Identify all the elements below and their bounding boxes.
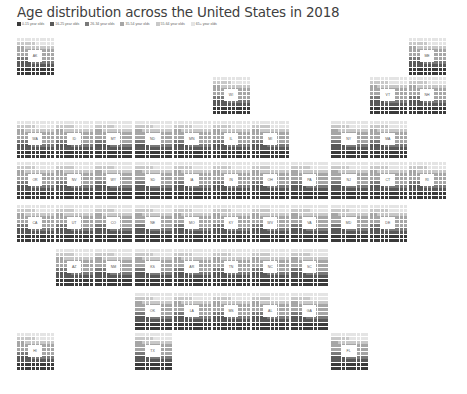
waffle-cell — [291, 162, 294, 165]
waffle-cell — [67, 166, 70, 169]
state-label: NV — [67, 174, 81, 186]
waffle-cell — [439, 38, 442, 41]
waffle-cell — [200, 220, 203, 223]
waffle-cell — [247, 209, 250, 212]
waffle-cell — [60, 283, 63, 286]
waffle-cell — [138, 356, 141, 359]
waffle-cell — [420, 81, 423, 84]
waffle-cell — [165, 356, 168, 359]
waffle-cell — [56, 181, 59, 184]
waffle-cell — [247, 170, 250, 173]
waffle-cell — [174, 301, 177, 304]
waffle-cell — [86, 279, 89, 282]
waffle-cell — [295, 170, 298, 173]
waffle-cell — [138, 239, 141, 242]
waffle-cell — [267, 279, 270, 282]
waffle-cell — [409, 42, 412, 45]
waffle-cell — [413, 49, 416, 52]
waffle-cell — [138, 136, 141, 139]
waffle-cell — [83, 260, 86, 263]
waffle-cell — [95, 264, 98, 267]
waffle-cell — [400, 177, 403, 180]
waffle-cell — [331, 151, 334, 154]
waffle-cell — [181, 253, 184, 256]
waffle-cell — [286, 249, 289, 252]
waffle-cell — [208, 275, 211, 278]
waffle-cell — [32, 155, 35, 158]
waffle-cell — [243, 177, 246, 180]
waffle-cell — [135, 275, 138, 278]
waffle-cell — [400, 151, 403, 154]
waffle-cell — [64, 162, 67, 165]
waffle-cell — [185, 188, 188, 191]
waffle-cell — [357, 363, 360, 366]
waffle-cell — [396, 92, 399, 95]
waffle-cell — [118, 196, 121, 199]
waffle-cell — [331, 367, 334, 370]
waffle-cell — [252, 293, 255, 296]
waffle-cell — [349, 367, 352, 370]
waffle-cell — [200, 327, 203, 330]
waffle-cell — [28, 239, 31, 242]
waffle-cell — [282, 293, 285, 296]
waffle-cell — [409, 85, 412, 88]
waffle-cell — [165, 140, 168, 143]
waffle-cell — [185, 293, 188, 296]
waffle-cell — [291, 327, 294, 330]
waffle-cell — [208, 209, 211, 212]
waffle-cell — [25, 209, 28, 212]
waffle-cell — [213, 209, 216, 212]
waffle-cell — [79, 162, 82, 165]
waffle-cell — [364, 166, 367, 169]
waffle-cell — [381, 170, 384, 173]
waffle-cell — [413, 57, 416, 60]
waffle-cell — [349, 170, 352, 173]
waffle-cell — [338, 359, 341, 362]
waffle-cell — [86, 275, 89, 278]
waffle-cell — [361, 147, 364, 150]
waffle-cell — [282, 327, 285, 330]
waffle-cell — [361, 173, 364, 176]
waffle-cell — [213, 275, 216, 278]
waffle-cell — [56, 188, 59, 191]
waffle-cell — [71, 235, 74, 238]
waffle-cell — [377, 170, 380, 173]
waffle-cell — [295, 260, 298, 263]
waffle-cell — [342, 125, 345, 128]
waffle-cell — [25, 367, 28, 370]
waffle-cell — [178, 231, 181, 234]
waffle-cell — [370, 129, 373, 132]
waffle-cell — [413, 192, 416, 195]
waffle-cell — [118, 188, 121, 191]
waffle-cell — [236, 257, 239, 260]
waffle-cell — [321, 220, 324, 223]
waffle-cell — [36, 239, 39, 242]
waffle-cell — [413, 173, 416, 176]
waffle-cell — [282, 308, 285, 311]
waffle-cell — [185, 249, 188, 252]
waffle-cell — [239, 228, 242, 231]
waffle-cell — [252, 140, 255, 143]
waffle-cell — [232, 188, 235, 191]
waffle-cell — [135, 177, 138, 180]
waffle-cell — [138, 181, 141, 184]
waffle-cell — [181, 257, 184, 260]
waffle-cell — [321, 213, 324, 216]
waffle-cell — [161, 356, 164, 359]
waffle-cell — [90, 144, 93, 147]
waffle-cell — [271, 125, 274, 128]
waffle-cell — [99, 205, 102, 208]
waffle-cell — [247, 304, 250, 307]
waffle-cell — [334, 344, 337, 347]
waffle-cell — [165, 188, 168, 191]
waffle-cell — [71, 192, 74, 195]
state-label: MN — [185, 133, 199, 145]
waffle-cell — [314, 319, 317, 322]
waffle-cell — [86, 181, 89, 184]
waffle-cell — [107, 162, 110, 165]
waffle-cell — [279, 129, 282, 132]
waffle-cell — [47, 72, 50, 75]
waffle-cell — [417, 196, 420, 199]
waffle-cell — [256, 192, 259, 195]
waffle-cell — [263, 327, 266, 330]
